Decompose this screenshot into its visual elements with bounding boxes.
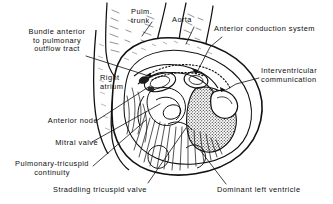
- label-bundle-anterior-to-pulmonary-outflow-tract: Bundle anterior to pulmonary outflow tra…: [14, 28, 100, 54]
- label-anterior-node: Anterior node: [12, 117, 98, 126]
- label-anterior-conduction-system: Anterior conduction system: [214, 25, 332, 34]
- label-pulmonary-tricuspid-continuity: Pulmonary-tricuspid continuity: [4, 160, 100, 177]
- label-mitral-valve: Mitral valve: [12, 139, 98, 148]
- anatomical-figure: Bundle anterior to pulmonary outflow tra…: [0, 0, 333, 204]
- label-pulmonary-trunk: Pulm. trunk: [131, 8, 165, 25]
- label-interventricular-communication: Interventricular communication: [261, 67, 331, 84]
- label-straddling-tricuspid-valve: Straddling tricuspid valve: [53, 186, 179, 195]
- label-aorta: Aorta: [172, 16, 206, 25]
- label-dominant-left-ventricle: Dominant left ventricle: [217, 186, 331, 195]
- label-right-atrium: Right atrium: [100, 74, 134, 91]
- cardiac-silhouette: [112, 38, 262, 175]
